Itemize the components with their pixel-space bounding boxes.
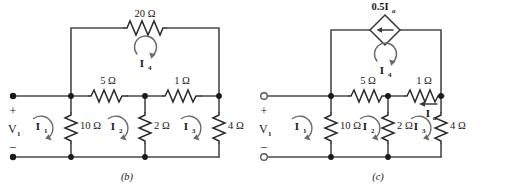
resistor-c-4ohm-symbol — [435, 112, 447, 144]
node-b-e — [142, 154, 148, 160]
node-b-b — [142, 93, 148, 99]
terminal-c-positive — [261, 93, 268, 100]
resistor-b-1ohm-symbol — [162, 90, 202, 102]
resistor-b-2ohm-symbol — [139, 112, 151, 144]
source-b-sub: 1 — [17, 130, 21, 138]
node-c-c — [438, 93, 444, 99]
mesh-current-b-I4: I 4 — [134, 36, 156, 72]
mesh-current-b-I1-symbol: I — [36, 120, 40, 132]
polarity-b-plus: + — [10, 104, 17, 118]
resistor-c-10ohm-label: 10 Ω — [340, 120, 361, 131]
source-b-label: V — [8, 122, 17, 136]
circuit-b: 20 Ω 5 Ω 1 Ω 10 Ω 2 Ω 4 Ω — [8, 8, 244, 183]
polarity-c-minus: – — [260, 139, 268, 153]
node-b-d — [68, 154, 74, 160]
mesh-current-c-I4-sub: 4 — [388, 71, 392, 79]
mesh-current-b-I1: I 1 — [34, 116, 53, 141]
node-b-c — [216, 93, 222, 99]
wire-c-top-right — [400, 30, 441, 96]
mesh-current-c-I3: I 3 — [412, 116, 431, 141]
resistor-c-1ohm-label: 1 Ω — [416, 75, 432, 86]
control-current-Ia-head — [419, 101, 425, 107]
mesh-current-b-I4-symbol: I — [140, 57, 144, 69]
resistor-c-5ohm-symbol — [348, 90, 388, 102]
source-c-sub: 1 — [268, 130, 272, 138]
mesh-current-b-I3-sub: 3 — [192, 127, 196, 135]
circuit-c: 0.5I a 5 Ω 1 Ω 10 Ω 2 Ω 4 Ω — [259, 1, 466, 183]
mesh-current-c-I3-sub: 3 — [422, 127, 426, 135]
caption-c: (c) — [372, 171, 384, 183]
mesh-current-c-I2-sub: 2 — [371, 127, 375, 135]
polarity-c-plus: + — [261, 104, 268, 118]
polarity-b-minus: – — [9, 139, 17, 153]
resistor-c-2ohm-label: 2 Ω — [397, 120, 413, 131]
circuit-canvas: 20 Ω 5 Ω 1 Ω 10 Ω 2 Ω 4 Ω — [0, 0, 509, 188]
mesh-current-b-I2-symbol: I — [111, 120, 115, 132]
resistor-b-5ohm-label: 5 Ω — [100, 75, 116, 86]
resistor-c-4ohm-label: 4 Ω — [450, 120, 466, 131]
wire-c-top-left — [331, 30, 370, 96]
mesh-current-c-I4-symbol: I — [380, 64, 384, 76]
control-current-Ia-sub: a — [433, 114, 437, 122]
circuit-figure-pair: 20 Ω 5 Ω 1 Ω 10 Ω 2 Ω 4 Ω — [0, 0, 509, 188]
node-c-d — [328, 154, 334, 160]
dependent-source-sub: a — [392, 7, 396, 15]
mesh-current-b-I2: I 2 — [109, 116, 128, 141]
node-c-e — [385, 154, 391, 160]
resistor-c-5ohm-label: 5 Ω — [360, 75, 376, 86]
mesh-current-b-I3-symbol: I — [184, 120, 188, 132]
dependent-source-label: 0.5I — [371, 1, 388, 12]
resistor-b-4ohm-symbol — [213, 112, 225, 144]
resistor-b-10ohm-label: 10 Ω — [80, 120, 101, 131]
resistor-b-1ohm-label: 1 Ω — [174, 75, 190, 86]
terminal-b-negative — [10, 154, 16, 160]
mesh-current-c-I1-sub: 1 — [303, 127, 307, 135]
resistor-b-4ohm-label: 4 Ω — [228, 120, 244, 131]
resistor-c-10ohm-symbol — [325, 112, 337, 144]
resistor-c-2ohm-symbol — [382, 112, 394, 144]
resistor-c-1ohm-symbol — [404, 90, 441, 102]
mesh-current-c-I2-symbol: I — [363, 120, 367, 132]
mesh-current-b-I1-sub: 1 — [44, 127, 48, 135]
resistor-b-20ohm-label: 20 Ω — [135, 8, 156, 19]
control-current-Ia: I a — [419, 101, 437, 122]
terminal-c-negative — [261, 154, 268, 161]
mesh-current-b-I3: I 3 — [182, 116, 201, 141]
mesh-current-c-I4: I 4 — [374, 43, 396, 79]
mesh-current-c-I1-symbol: I — [295, 120, 299, 132]
resistor-b-10ohm-symbol — [65, 112, 77, 144]
mesh-current-b-I2-sub: 2 — [119, 127, 123, 135]
control-current-Ia-symbol: I — [426, 107, 430, 119]
caption-b: (b) — [121, 171, 134, 183]
source-c-label: V — [259, 122, 268, 136]
node-b-a — [68, 93, 74, 99]
mesh-current-c-I3-symbol: I — [414, 120, 418, 132]
terminal-b-positive — [10, 93, 16, 99]
mesh-current-c-I2: I 2 — [361, 116, 380, 141]
resistor-b-2ohm-label: 2 Ω — [154, 120, 170, 131]
node-c-a — [328, 93, 334, 99]
resistor-b-20ohm-symbol — [123, 21, 167, 35]
mesh-current-c-I1: I 1 — [293, 116, 312, 141]
resistor-b-5ohm-symbol — [88, 90, 128, 102]
node-c-b — [385, 93, 391, 99]
mesh-current-b-I4-sub: 4 — [148, 64, 152, 72]
